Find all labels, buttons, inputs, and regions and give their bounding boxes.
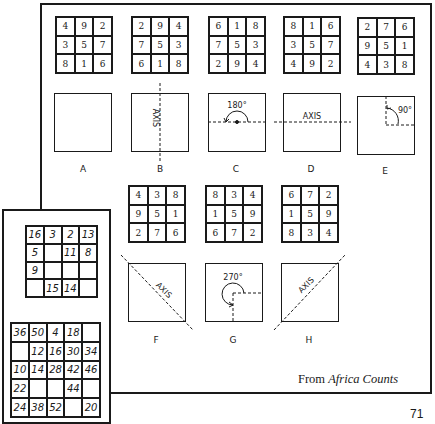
label-f: F — [146, 335, 166, 345]
caption-title: Africa Counts — [328, 372, 398, 386]
grid-cell: 5 — [148, 205, 167, 224]
grid-cell — [44, 262, 62, 280]
label-b: B — [150, 164, 170, 174]
magic-square-g: 834159672 — [205, 185, 263, 243]
angle-label-e: 90° — [398, 106, 412, 115]
grid-cell: 9 — [243, 205, 262, 224]
handwritten-grid-4x4: 163213511891514 — [25, 225, 98, 298]
axis-label-b: AXIS — [151, 109, 160, 127]
grid-cell — [64, 398, 82, 417]
grid-cell: 7 — [301, 186, 320, 205]
grid-cell: 1 — [282, 205, 301, 224]
grid-cell: 9 — [26, 262, 44, 280]
caption-prefix: From — [298, 372, 328, 386]
label-h: H — [299, 335, 319, 345]
grid-cell: 2 — [129, 223, 148, 242]
label-d: D — [301, 164, 321, 174]
grid-cell: 2 — [319, 186, 338, 205]
grid-cell: 42 — [64, 361, 82, 380]
figure-caption: From Africa Counts — [298, 372, 398, 387]
grid-cell: 13 — [79, 226, 97, 244]
grid-cell: 24 — [11, 398, 29, 417]
grid-cell: 52 — [47, 398, 65, 417]
grid-cell: 30 — [64, 342, 82, 361]
grid-cell — [11, 342, 29, 361]
grid-cell — [29, 379, 47, 398]
grid-cell: 14 — [62, 279, 80, 297]
grid-cell — [62, 262, 80, 280]
grid-cell: 11 — [62, 244, 80, 262]
grid-cell: 4 — [319, 223, 338, 242]
magic-square-f: 438951276 — [128, 185, 186, 243]
grid-cell: 34 — [82, 342, 100, 361]
grid-cell: 2 — [243, 223, 262, 242]
page-number: 71 — [410, 407, 423, 421]
transform-square-f — [128, 263, 186, 322]
label-e: E — [375, 166, 395, 176]
grid-cell: 3 — [44, 226, 62, 244]
grid-cell: 46 — [82, 361, 100, 380]
grid-cell: 6 — [282, 186, 301, 205]
grid-cell: 8 — [206, 186, 225, 205]
grid-cell: 7 — [148, 223, 167, 242]
grid-cell: 20 — [82, 398, 100, 417]
grid-cell: 38 — [29, 398, 47, 417]
grid-cell: 6 — [206, 223, 225, 242]
transform-square-h — [281, 263, 339, 322]
grid-cell: 5 — [301, 205, 320, 224]
grid-cell — [47, 379, 65, 398]
grid-cell: 15 — [44, 279, 62, 297]
grid-cell: 3 — [225, 186, 244, 205]
grid-cell: 36 — [11, 323, 29, 342]
grid-cell: 1 — [166, 205, 185, 224]
grid-cell: 28 — [47, 361, 65, 380]
grid-cell — [79, 262, 97, 280]
grid-cell: 22 — [11, 379, 29, 398]
axis-label-d: AXIS — [303, 112, 321, 121]
grid-cell: 6 — [166, 223, 185, 242]
grid-cell: 5 — [225, 205, 244, 224]
grid-cell: 14 — [29, 361, 47, 380]
grid-cell: 9 — [319, 205, 338, 224]
grid-cell: 50 — [29, 323, 47, 342]
label-a: A — [73, 164, 93, 174]
grid-cell: 3 — [148, 186, 167, 205]
grid-cell: 4 — [47, 323, 65, 342]
grid-cell: 7 — [225, 223, 244, 242]
grid-cell: 18 — [64, 323, 82, 342]
grid-cell: 16 — [26, 226, 44, 244]
grid-cell — [82, 323, 100, 342]
grid-cell: 3 — [301, 223, 320, 242]
transform-square-g — [205, 263, 263, 322]
grid-cell — [26, 279, 44, 297]
grid-cell: 2 — [62, 226, 80, 244]
grid-cell: 9 — [129, 205, 148, 224]
grid-cell: 8 — [166, 186, 185, 205]
angle-label-c: 180° — [227, 101, 246, 110]
grid-cell: 5 — [26, 244, 44, 262]
magic-square-h: 672159834 — [281, 185, 339, 243]
handwritten-grid-5x5: 3650418121630341014284246224424385220 — [10, 322, 101, 418]
grid-cell — [82, 379, 100, 398]
grid-cell — [44, 244, 62, 262]
grid-cell: 44 — [64, 379, 82, 398]
grid-cell: 1 — [206, 205, 225, 224]
label-g: G — [223, 335, 243, 345]
label-c: C — [226, 164, 246, 174]
grid-cell: 16 — [47, 342, 65, 361]
grid-cell: 8 — [79, 244, 97, 262]
grid-cell: 8 — [282, 223, 301, 242]
grid-cell: 4 — [129, 186, 148, 205]
grid-cell: 10 — [11, 361, 29, 380]
grid-cell: 12 — [29, 342, 47, 361]
grid-cell — [79, 279, 97, 297]
grid-cell: 4 — [243, 186, 262, 205]
